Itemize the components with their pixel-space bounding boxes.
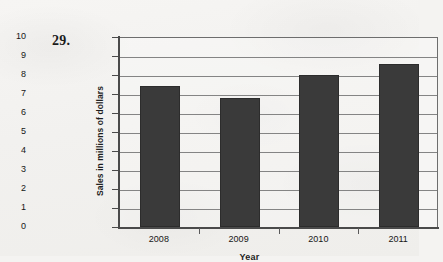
y-axis-tick-label: 10 <box>0 32 26 41</box>
y-axis-tick <box>112 132 119 133</box>
x-axis-tick-label: 2011 <box>368 234 428 244</box>
y-axis-tick <box>112 37 119 38</box>
y-axis-tick <box>112 56 119 57</box>
y-axis-tick <box>112 113 119 114</box>
x-axis-title: Year <box>40 252 443 262</box>
x-axis-tick <box>279 228 280 234</box>
y-axis-tick-label: 4 <box>0 146 26 155</box>
bars-group <box>120 38 437 227</box>
y-axis-tick-label: 1 <box>0 203 26 212</box>
x-axis-tick-label: 2010 <box>288 234 348 244</box>
y-axis-tick-label: 6 <box>0 108 26 117</box>
y-axis-tick <box>112 151 119 152</box>
y-axis-tick-label: 8 <box>0 70 26 79</box>
y-axis-tick <box>112 94 119 95</box>
plot-area <box>119 37 438 227</box>
y-axis-title: Sales in millions of dollars <box>95 61 105 221</box>
y-axis-tick <box>112 189 119 190</box>
y-axis-tick-label: 7 <box>0 89 26 98</box>
y-axis-tick <box>112 170 119 171</box>
bar <box>220 98 260 227</box>
y-axis-tick <box>112 75 119 76</box>
y-axis-tick-label: 9 <box>0 51 26 60</box>
x-axis-tick-label: 2009 <box>209 234 269 244</box>
y-axis-tick <box>112 208 119 209</box>
problem-number-label: 29. <box>52 33 70 49</box>
x-axis-tick <box>199 228 200 234</box>
bar <box>299 75 339 227</box>
y-axis-tick-label: 0 <box>0 222 26 231</box>
y-axis-tick-label: 5 <box>0 127 26 136</box>
y-axis-tick-label: 2 <box>0 184 26 193</box>
x-axis-tick-label: 2008 <box>129 234 189 244</box>
bar-chart-figure: 29. Sales in millions of dollars 0123456… <box>40 16 379 240</box>
bar <box>140 86 180 227</box>
bar <box>379 64 419 227</box>
x-axis-tick <box>358 228 359 234</box>
y-axis-tick-label: 3 <box>0 165 26 174</box>
